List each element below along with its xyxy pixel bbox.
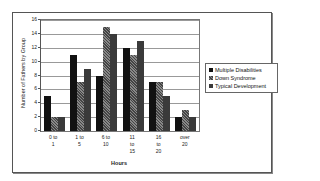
gridline bbox=[41, 62, 199, 63]
bar bbox=[110, 34, 117, 131]
bar bbox=[149, 82, 156, 131]
bar bbox=[51, 117, 58, 131]
bar bbox=[175, 117, 182, 131]
y-tick-label: 14 bbox=[26, 30, 37, 36]
gridline bbox=[41, 89, 199, 90]
legend-swatch bbox=[209, 76, 213, 80]
bar bbox=[77, 82, 84, 131]
x-tick-label: 6 to 10 bbox=[93, 134, 119, 148]
y-tick-label: 8 bbox=[26, 72, 37, 78]
bar bbox=[103, 27, 110, 131]
x-tick-label: 11 to 15 bbox=[119, 134, 145, 155]
bar bbox=[163, 96, 170, 131]
bar bbox=[96, 76, 103, 132]
bar bbox=[130, 55, 137, 131]
x-tick-label: 16 to 20 bbox=[146, 134, 172, 155]
bar bbox=[58, 117, 65, 131]
x-tick-label: 1 to 5 bbox=[67, 134, 93, 148]
y-tick-label: 12 bbox=[26, 44, 37, 50]
gridline bbox=[41, 48, 199, 49]
gridline bbox=[41, 34, 199, 35]
legend-item-typical-development: Typical Development bbox=[209, 83, 266, 89]
x-tick-label: over 20 bbox=[172, 134, 198, 148]
plot-area bbox=[40, 19, 200, 132]
gridline bbox=[41, 103, 199, 104]
y-tick-label: 0 bbox=[26, 127, 37, 133]
y-tick-label: 10 bbox=[26, 58, 37, 64]
gridline bbox=[41, 20, 199, 21]
bar bbox=[182, 110, 189, 131]
legend: Multiple Disabilities Down Syndrome Typi… bbox=[205, 63, 278, 93]
gridline bbox=[41, 76, 199, 77]
y-tick-label: 6 bbox=[26, 85, 37, 91]
x-tick-label: 0 to 1 bbox=[40, 134, 66, 148]
bar bbox=[189, 117, 196, 131]
legend-item-down-syndrome: Down Syndrome bbox=[209, 75, 256, 81]
legend-item-multiple-disabilities: Multiple Disabilities bbox=[209, 67, 262, 73]
bar bbox=[84, 69, 91, 131]
legend-swatch bbox=[209, 68, 213, 72]
legend-swatch bbox=[209, 84, 213, 88]
bar bbox=[156, 82, 163, 131]
y-tick-label: 4 bbox=[26, 99, 37, 105]
bar bbox=[70, 55, 77, 131]
bar bbox=[44, 96, 51, 131]
x-axis-title: Hours bbox=[104, 160, 134, 166]
y-tick-label: 16 bbox=[26, 16, 37, 22]
y-tick-label: 2 bbox=[26, 113, 37, 119]
bar bbox=[137, 41, 144, 131]
bar bbox=[123, 48, 130, 131]
